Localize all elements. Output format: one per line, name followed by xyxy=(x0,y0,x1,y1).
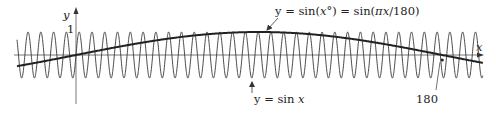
annotation-text: °) = sin( xyxy=(326,4,375,18)
x-tick-label-180: 180 xyxy=(416,92,438,106)
x-intercept-180-point xyxy=(441,58,444,61)
annotation-sin-degrees: y = sin(x°) = sin(πx/180) xyxy=(274,4,419,18)
y-axis-label: y xyxy=(62,8,70,22)
annotation-text: x xyxy=(298,92,305,106)
chart: y 1 x y = sin(x°) = sin(πx/180) y = sin … xyxy=(0,0,496,113)
annotation-leader-180 xyxy=(436,62,440,90)
annotation-text: y = sin( xyxy=(274,4,320,18)
y-tick-label-1: 1 xyxy=(67,22,74,36)
annotation-text: /180) xyxy=(389,4,419,18)
annotation-sin-x: y = sin x xyxy=(253,92,305,106)
annotation-text: y = sin xyxy=(253,92,298,106)
annotation-arrow-sin-degrees xyxy=(267,18,278,30)
y-axis-arrow-icon xyxy=(74,7,79,14)
x-axis-label: x xyxy=(476,40,483,54)
